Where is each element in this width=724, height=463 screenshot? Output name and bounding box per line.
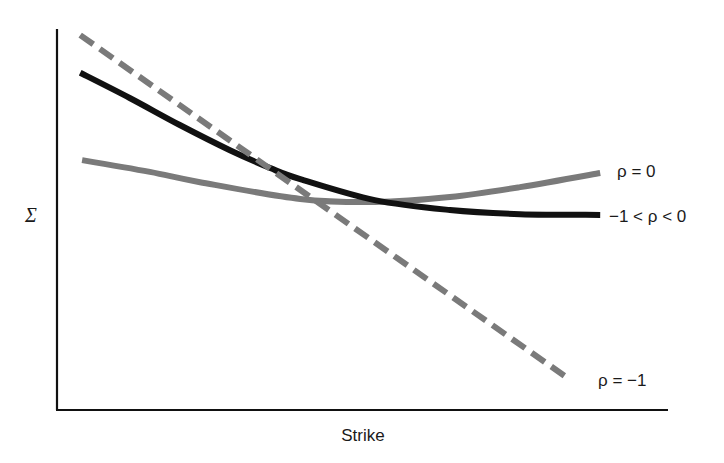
y-axis-label: Σ bbox=[24, 204, 37, 226]
series-label-rho-minus-1: ρ = −1 bbox=[598, 371, 646, 390]
series-label-rho-zero: ρ = 0 bbox=[617, 162, 656, 181]
series-label-rho-between: −1 < ρ < 0 bbox=[609, 207, 686, 226]
x-axis-label: Strike bbox=[341, 426, 384, 445]
series-rho-zero-line bbox=[82, 160, 600, 202]
series-rho-between-line bbox=[80, 73, 600, 215]
volatility-skew-chart: Σ Strike ρ = −1 −1 < ρ < 0 ρ = 0 bbox=[0, 0, 724, 463]
series-rho-minus-1-line bbox=[80, 35, 570, 380]
series-layer bbox=[80, 35, 600, 380]
